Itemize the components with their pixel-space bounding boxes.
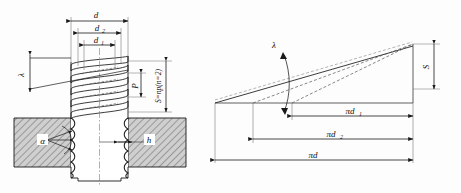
figure-svg: d d 2 d 1 P S=np(n=2) xyxy=(0,0,461,193)
label-major-diameter: d xyxy=(94,10,99,20)
label-minor-diameter-subscript: 1 xyxy=(101,40,104,46)
label-helix-angle-right: λ xyxy=(271,40,276,50)
label-thread-angle: α xyxy=(40,136,45,146)
label-minor-diameter: d xyxy=(94,35,99,45)
label-circumference-minor: πd xyxy=(345,106,355,116)
label-circumference-major: πd xyxy=(308,150,318,160)
thread-geometry-figure: d d 2 d 1 P S=np(n=2) xyxy=(0,0,461,193)
label-pitch-diameter: d xyxy=(95,23,100,33)
label-circumference-pitch: πd xyxy=(326,129,336,139)
label-pitch-diameter-subscript: 2 xyxy=(102,28,105,34)
label-lead-right: S xyxy=(421,64,431,69)
label-circumference-minor-subscript: 1 xyxy=(359,111,362,117)
label-thread-depth: h xyxy=(147,135,152,145)
label-circumference-pitch-subscript: 2 xyxy=(340,134,343,140)
label-helix-angle-left: λ xyxy=(16,73,26,78)
label-pitch: P xyxy=(130,83,140,90)
label-lead: S=np(n=2) xyxy=(154,69,163,103)
